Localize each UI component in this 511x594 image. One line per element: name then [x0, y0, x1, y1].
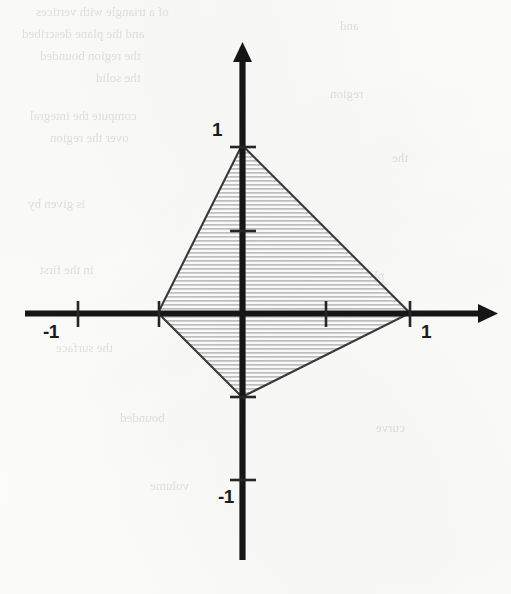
y-axis-label-negative-one: -1 [218, 487, 234, 506]
figure-page: of a triangle with verticesand the plane… [0, 0, 511, 594]
coordinate-plane-figure [0, 0, 511, 594]
x-axis-label-positive-one: 1 [421, 322, 431, 341]
x-axis-label-negative-one: -1 [43, 322, 59, 341]
shaded-region [158, 145, 410, 397]
y-axis-label-positive-one: 1 [212, 120, 222, 139]
